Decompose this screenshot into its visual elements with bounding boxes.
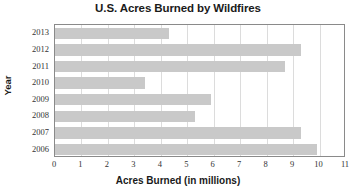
bar-row bbox=[55, 75, 344, 92]
x-tick-label-10: 10 bbox=[309, 159, 329, 169]
bar-2010 bbox=[55, 77, 145, 88]
bar-2006 bbox=[55, 144, 317, 155]
wildfires-bar-chart: U.S. Acres Burned by Wildfires Year 2013… bbox=[0, 0, 356, 195]
x-tick-label-2: 2 bbox=[97, 159, 117, 169]
x-tick-label-8: 8 bbox=[256, 159, 276, 169]
y-tick-label-2008: 2008 bbox=[1, 110, 49, 120]
x-tick-label-11: 11 bbox=[335, 159, 355, 169]
bar-row bbox=[55, 141, 344, 157]
bar-2008 bbox=[55, 111, 195, 122]
bar-row bbox=[55, 58, 344, 75]
bar-2012 bbox=[55, 44, 301, 55]
bar-row bbox=[55, 42, 344, 59]
y-tick-label-2011: 2011 bbox=[1, 61, 49, 71]
x-tick-label-0: 0 bbox=[44, 159, 64, 169]
bar-row bbox=[55, 108, 344, 125]
y-tick-label-2010: 2010 bbox=[1, 77, 49, 87]
x-axis-tick-labels: 01234567891011 bbox=[54, 159, 345, 171]
y-tick-label-2006: 2006 bbox=[1, 144, 49, 154]
bar-2013 bbox=[55, 28, 169, 39]
chart-title: U.S. Acres Burned by Wildfires bbox=[0, 2, 356, 14]
x-tick-label-5: 5 bbox=[176, 159, 196, 169]
bar-2009 bbox=[55, 94, 211, 105]
bar-2011 bbox=[55, 61, 285, 72]
plot-area bbox=[54, 24, 345, 157]
y-tick-label-2007: 2007 bbox=[1, 127, 49, 137]
x-tick-label-1: 1 bbox=[70, 159, 90, 169]
x-tick-label-4: 4 bbox=[150, 159, 170, 169]
y-tick-label-2012: 2012 bbox=[1, 44, 49, 54]
x-tick-label-7: 7 bbox=[229, 159, 249, 169]
y-tick-label-2009: 2009 bbox=[1, 94, 49, 104]
y-tick-label-2013: 2013 bbox=[1, 27, 49, 37]
x-tick-label-3: 3 bbox=[123, 159, 143, 169]
bar-row bbox=[55, 25, 344, 42]
bar-row bbox=[55, 92, 344, 109]
bar-2007 bbox=[55, 127, 301, 138]
bars-layer bbox=[55, 25, 344, 156]
x-tick-label-6: 6 bbox=[203, 159, 223, 169]
y-axis-tick-labels: 20132012201120102009200820072006 bbox=[0, 24, 52, 157]
x-tick-label-9: 9 bbox=[282, 159, 302, 169]
x-axis-title: Acres Burned (in millions) bbox=[0, 175, 356, 186]
bar-row bbox=[55, 125, 344, 142]
